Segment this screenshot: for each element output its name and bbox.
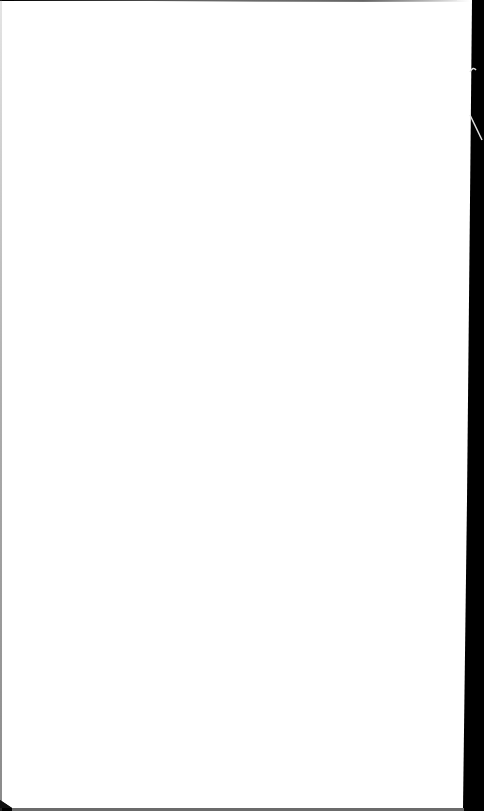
paper-corner xyxy=(0,800,12,808)
paper-left-edge-shadow xyxy=(0,0,2,811)
photo-scene xyxy=(0,0,484,811)
blank-paper-sheet xyxy=(0,0,484,811)
background-scratch-marks xyxy=(468,60,484,150)
paper-top-edge-shadow xyxy=(150,0,470,2)
